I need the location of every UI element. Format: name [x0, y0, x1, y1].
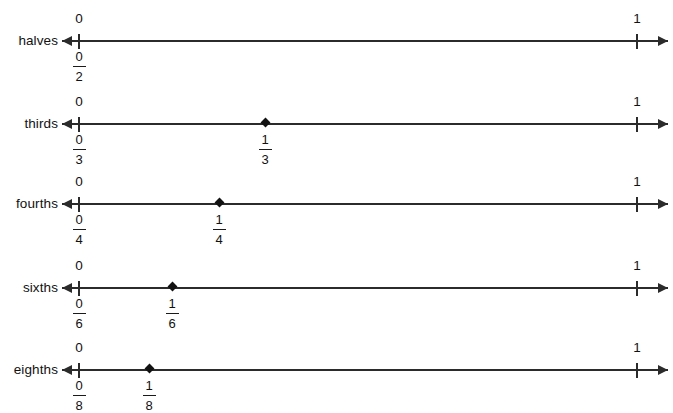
fraction-number-lines-figure: halves 0 1 0 2 thirds 0 1 0 3 1 3 — [0, 0, 673, 413]
left-arrowhead-icon — [62, 36, 72, 46]
right-arrowhead-icon — [658, 36, 668, 46]
fraction-denominator: 3 — [243, 152, 287, 167]
tick-zero — [78, 197, 80, 212]
top-label-zero: 0 — [59, 11, 99, 26]
top-label-one: 1 — [617, 340, 657, 355]
left-arrowhead-icon — [62, 365, 72, 375]
unit-fraction-point-marker — [167, 282, 177, 292]
fraction-unit: 1 3 — [243, 132, 287, 167]
row-label-fourths: fourths — [16, 195, 58, 213]
row-label-thirds: thirds — [24, 115, 58, 133]
fraction-bar — [73, 395, 86, 397]
fraction-numerator: 1 — [127, 378, 171, 393]
fraction-numerator: 0 — [57, 378, 101, 393]
tick-zero — [78, 281, 80, 296]
left-arrowhead-icon — [62, 119, 72, 129]
fraction-denominator: 4 — [57, 232, 101, 247]
top-label-one: 1 — [617, 174, 657, 189]
top-label-zero: 0 — [59, 258, 99, 273]
fraction-denominator: 3 — [57, 152, 101, 167]
top-label-zero: 0 — [59, 94, 99, 109]
row-label-halves: halves — [18, 32, 58, 50]
tick-one — [636, 281, 638, 296]
tick-zero — [78, 363, 80, 378]
right-arrowhead-icon — [658, 283, 668, 293]
fraction-bar — [213, 229, 226, 231]
tick-one — [636, 34, 638, 49]
fraction-bar — [166, 313, 179, 315]
fraction-denominator: 8 — [127, 398, 171, 413]
fraction-zero: 0 4 — [57, 212, 101, 247]
fraction-bar — [143, 395, 156, 397]
axis-line — [62, 287, 668, 289]
fraction-unit: 1 8 — [127, 378, 171, 413]
tick-zero — [78, 34, 80, 49]
axis-line — [62, 123, 668, 125]
fraction-denominator: 4 — [197, 232, 241, 247]
fraction-numerator: 1 — [243, 132, 287, 147]
fraction-unit: 1 6 — [150, 296, 194, 331]
fraction-bar — [73, 229, 86, 231]
top-label-zero: 0 — [59, 174, 99, 189]
fraction-numerator: 0 — [57, 296, 101, 311]
tick-one — [636, 363, 638, 378]
fraction-zero: 0 2 — [57, 49, 101, 84]
fraction-numerator: 1 — [150, 296, 194, 311]
fraction-bar — [73, 313, 86, 315]
fraction-denominator: 2 — [57, 69, 101, 84]
fraction-denominator: 6 — [57, 316, 101, 331]
fraction-zero: 0 8 — [57, 378, 101, 413]
tick-one — [636, 117, 638, 132]
left-arrowhead-icon — [62, 283, 72, 293]
left-arrowhead-icon — [62, 199, 72, 209]
fraction-numerator: 0 — [57, 132, 101, 147]
fraction-zero: 0 6 — [57, 296, 101, 331]
top-label-zero: 0 — [59, 340, 99, 355]
fraction-bar — [259, 149, 272, 151]
top-label-one: 1 — [617, 11, 657, 26]
unit-fraction-point-marker — [260, 118, 270, 128]
tick-zero — [78, 117, 80, 132]
fraction-unit: 1 4 — [197, 212, 241, 247]
unit-fraction-point-marker — [214, 198, 224, 208]
tick-one — [636, 197, 638, 212]
right-arrowhead-icon — [658, 365, 668, 375]
fraction-numerator: 0 — [57, 212, 101, 227]
fraction-bar — [73, 149, 86, 151]
top-label-one: 1 — [617, 258, 657, 273]
row-label-eighths: eighths — [14, 361, 58, 379]
top-label-one: 1 — [617, 94, 657, 109]
right-arrowhead-icon — [658, 199, 668, 209]
row-label-sixths: sixths — [23, 279, 58, 297]
right-arrowhead-icon — [658, 119, 668, 129]
axis-line — [62, 203, 668, 205]
fraction-numerator: 1 — [197, 212, 241, 227]
fraction-bar — [73, 66, 86, 68]
axis-line — [62, 40, 668, 42]
fraction-denominator: 6 — [150, 316, 194, 331]
fraction-denominator: 8 — [57, 398, 101, 413]
unit-fraction-point-marker — [144, 364, 154, 374]
fraction-zero: 0 3 — [57, 132, 101, 167]
fraction-numerator: 0 — [57, 49, 101, 64]
